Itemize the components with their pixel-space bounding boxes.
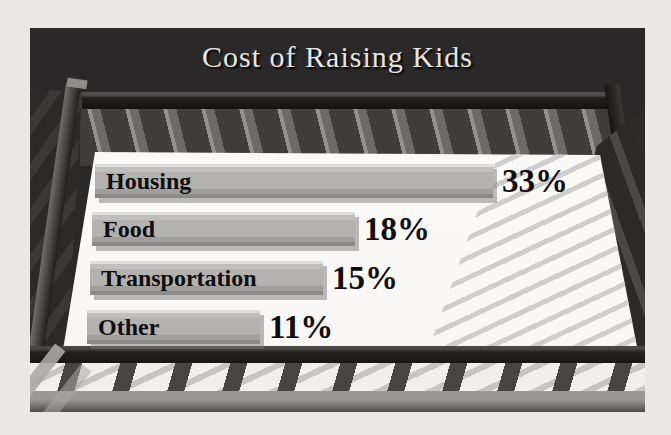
bar-value-transportation: 15%	[332, 260, 398, 297]
bar-label-other: Other	[87, 314, 159, 341]
bar-value-food: 18%	[364, 211, 430, 248]
bar-label-transportation: Transportation	[90, 265, 257, 292]
bar-transportation: Transportation	[90, 261, 323, 295]
bar-row-transportation: Transportation 15%	[30, 258, 645, 298]
bar-series: Housing 33% Food 18% Transportation 15% …	[30, 28, 645, 412]
bar-row-food: Food 18%	[30, 209, 645, 249]
bar-row-other: Other 11%	[30, 307, 645, 347]
bar-value-housing: 33%	[502, 163, 568, 200]
bar-label-food: Food	[92, 216, 155, 243]
crib-illustration: Cost of Raising Kids Housing 33%	[30, 28, 645, 412]
bar-value-other: 11%	[269, 309, 333, 346]
screenshot-root: Cost of Raising Kids Housing 33%	[0, 0, 671, 435]
bar-food: Food	[92, 212, 355, 246]
bar-housing: Housing	[95, 164, 493, 198]
bar-row-housing: Housing 33%	[30, 161, 645, 201]
bar-other: Other	[87, 310, 260, 344]
bar-label-housing: Housing	[95, 168, 191, 195]
